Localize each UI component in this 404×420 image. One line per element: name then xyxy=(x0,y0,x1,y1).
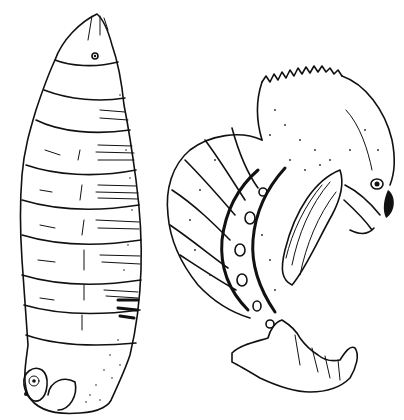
larva-drawing xyxy=(21,14,142,413)
pupa-drawing xyxy=(167,66,394,392)
illustration-figure xyxy=(0,0,404,420)
